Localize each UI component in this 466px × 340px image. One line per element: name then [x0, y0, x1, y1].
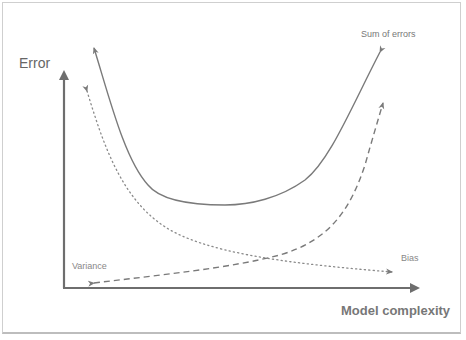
x-axis-title: Model complexity	[341, 303, 450, 318]
bias-label: Bias	[401, 253, 419, 263]
dashed-curve	[94, 103, 383, 283]
variance-label: Variance	[72, 261, 107, 271]
sum-of-errors-label: Sum of errors	[361, 29, 416, 39]
bias-variance-diagram	[0, 0, 466, 340]
y-axis-title: Error	[19, 55, 50, 71]
sum-of-errors-curve	[94, 48, 380, 205]
